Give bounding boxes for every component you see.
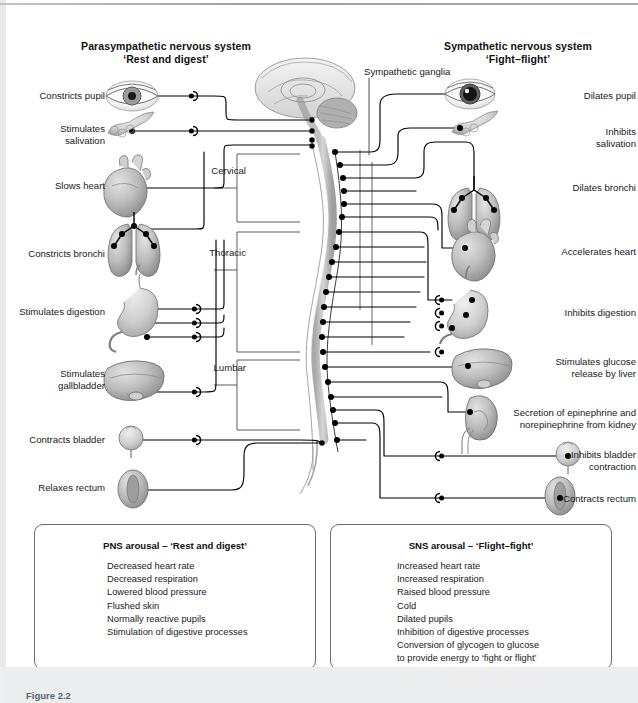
- organ-salivary-gland-right: [452, 111, 498, 136]
- list-item: Inhibition of digestive processes: [397, 626, 611, 639]
- spinal-region-brackets: [214, 154, 300, 430]
- list-item: Increased heart rate: [397, 560, 611, 573]
- sympathetic-terminal-markers: [435, 295, 444, 502]
- pns-arousal-summary-box: PNS arousal – ‘Rest and digest’ Decrease…: [34, 524, 316, 670]
- list-item: Decreased heart rate: [107, 560, 315, 573]
- figure-caption: Figure 2.2: [26, 690, 71, 701]
- spinal-region-label-cervical: Cervical: [211, 165, 246, 176]
- organ-bladder-left: [119, 426, 143, 458]
- list-item: Lowered blood pressure: [107, 586, 315, 599]
- spinal-region-label-lumbar: Lumbar: [213, 362, 246, 373]
- sns-summary-title: SNS arousal – ‘Flight–fight’: [331, 540, 611, 551]
- organ-heart-left: [104, 155, 151, 217]
- sympathetic-chain: [327, 152, 342, 452]
- pns-effect-label-constricts-bronchi: Constricts bronchi: [0, 248, 105, 260]
- organ-rectum-left: [118, 470, 148, 508]
- parasympathetic-terminal-markers: [189, 91, 201, 444]
- sns-effect-label-accelerates-heart: Accelerates heart: [512, 246, 636, 258]
- organ-eye-right: [445, 79, 495, 109]
- list-item: Flushed skin: [107, 600, 315, 613]
- sns-effect-label-secretion-epinephrine: Secretion of epinephrine andnorepinephri…: [486, 407, 636, 432]
- spinal-region-label-thoracic: Thoracic: [209, 247, 246, 258]
- sympathetic-title-line2: ‘Fight–flight’: [486, 53, 550, 65]
- page-top-rule: [0, 3, 638, 5]
- pns-effect-label-stimulates-salivation: Stimulatessalivation: [0, 123, 105, 148]
- organ-eye-left: [106, 81, 158, 111]
- list-item: Conversion of glycogen to glucose: [397, 639, 611, 652]
- parasympathetic-column-title: Parasympathetic nervous system ‘Rest and…: [56, 40, 276, 66]
- organ-liver-left: [104, 361, 164, 401]
- organ-salivary-gland-left: [108, 112, 154, 137]
- pns-effect-label-stimulates-gallbladder: Stimulatesgallbladder: [0, 368, 105, 393]
- pns-effect-label-stimulates-digestion: Stimulates digestion: [0, 306, 105, 318]
- pns-summary-title: PNS arousal – ‘Rest and digest’: [35, 540, 315, 551]
- list-item: to provide energy to ‘fight or flight’: [397, 652, 611, 665]
- parasympathetic-origin-nuclei: [309, 117, 324, 445]
- sns-effect-label-dilates-bronchi: Dilates bronchi: [512, 182, 636, 194]
- brain-illustration: [255, 58, 357, 148]
- sympathetic-title-line1: Sympathetic nervous system: [444, 40, 592, 52]
- sympathetic-nerve-pathways: [322, 94, 568, 498]
- organ-stomach-right: [440, 266, 488, 344]
- sns-summary-list: Increased heart rate Increased respirati…: [331, 560, 611, 666]
- page-left-margin-strip: [0, 0, 6, 703]
- spinal-cord-illustration: [300, 140, 332, 494]
- sns-arousal-summary-box: SNS arousal – ‘Flight–fight’ Increased h…: [330, 524, 612, 670]
- sns-effect-label-stimulates-glucose-release: Stimulates glucoserelease by liver: [506, 356, 636, 381]
- list-item: Decreased respiration: [107, 573, 315, 586]
- sns-effect-label-inhibits-salivation: Inhibitssalivation: [512, 126, 636, 151]
- pns-effect-label-constricts-pupil: Constricts pupil: [0, 90, 105, 102]
- organ-lungs-right: [448, 176, 500, 240]
- pns-effect-label-relaxes-rectum: Relaxes rectum: [0, 482, 105, 494]
- sympathetic-region-outline: [360, 150, 372, 345]
- sns-effect-label-contracts-rectum: Contracts rectum: [512, 493, 636, 505]
- parasympathetic-title-line1: Parasympathetic nervous system: [81, 40, 251, 52]
- parasympathetic-nerve-pathways: [130, 96, 322, 490]
- sns-effect-label-inhibits-digestion: Inhibits digestion: [512, 307, 636, 319]
- parasympathetic-organ-dots: [127, 93, 150, 493]
- organ-stomach-left: [110, 265, 158, 352]
- sympathetic-column-title: Sympathetic nervous system ‘Fight–flight…: [408, 40, 628, 66]
- sympathetic-ganglion-dots: [319, 149, 347, 443]
- organ-lungs-left: [108, 212, 160, 276]
- organ-liver-right: [452, 349, 512, 389]
- sns-effect-label-inhibits-bladder-contraction: Inhibits bladdercontraction: [512, 449, 636, 474]
- sns-effect-label-dilates-pupil: Dilates pupil: [512, 90, 636, 102]
- parasympathetic-title-line2: ‘Rest and digest’: [123, 53, 209, 65]
- list-item: Dilated pupils: [397, 613, 611, 626]
- list-item: Increased respiration: [397, 573, 611, 586]
- pns-effect-label-contracts-bladder: Contracts bladder: [0, 434, 105, 446]
- list-item: Stimulation of digestive processes: [107, 626, 315, 639]
- pns-effect-label-slows-heart: Slows heart: [0, 180, 105, 192]
- sympathetic-ganglia-label: Sympathetic ganglia: [364, 66, 450, 77]
- organ-heart-right: [452, 219, 499, 281]
- pns-summary-list: Decreased heart rate Decreased respirati…: [35, 560, 315, 639]
- list-item: Raised blood pressure: [397, 586, 611, 599]
- list-item: Cold: [397, 600, 611, 613]
- figure-page: Parasympathetic nervous system ‘Rest and…: [0, 0, 638, 703]
- figure-caption-band-inner: [6, 667, 638, 703]
- list-item: Normally reactive pupils: [107, 613, 315, 626]
